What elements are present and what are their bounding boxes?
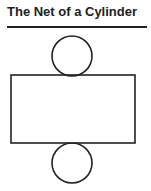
bottom-circle-base <box>52 143 92 183</box>
lateral-surface-rectangle <box>11 75 135 143</box>
top-circle-base <box>52 36 92 76</box>
cylinder-net-diagram <box>0 0 151 191</box>
